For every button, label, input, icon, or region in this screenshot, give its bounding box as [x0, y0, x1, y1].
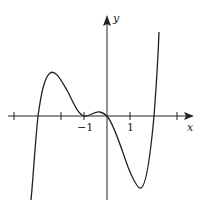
y-axis-label: y [112, 12, 120, 25]
function-graph: −1 1 x y [0, 0, 203, 214]
x-axis-label: x [187, 121, 194, 134]
tick-label-neg1: −1 [77, 121, 93, 134]
tick-label-pos1: 1 [127, 121, 134, 134]
